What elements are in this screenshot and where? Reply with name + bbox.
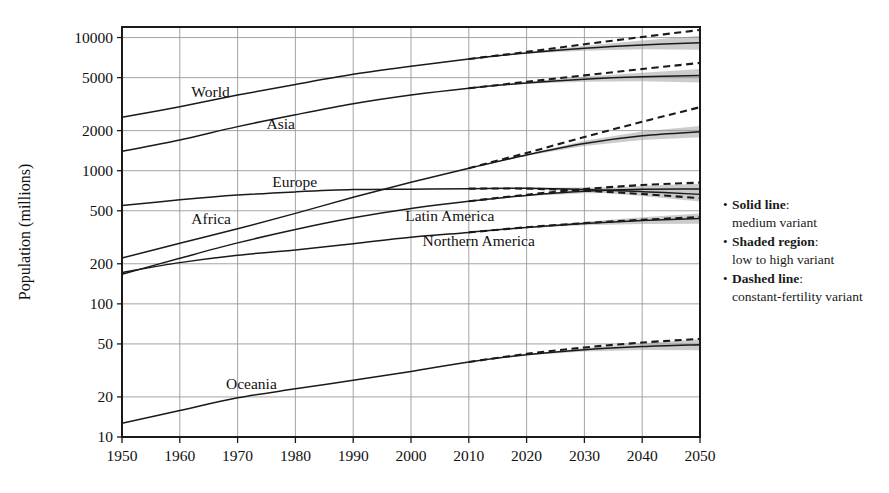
x-tick-label: 2000 [396,447,427,464]
y-axis-title: Population (millions) [16,164,34,300]
series-label-oceania: Oceania [226,375,277,392]
population-projection-figure: 10205010020050010002000500010000 1950196… [0,0,889,493]
series-label-asia: Asia [267,115,296,132]
legend-colon: : [815,234,819,249]
legend-colon: : [786,197,790,212]
x-tick-label: 1950 [107,447,138,464]
y-tick-label: 10000 [74,29,113,46]
bullet-icon: • [723,270,732,306]
legend-item-solid-line: • Solid line: medium variant [723,196,889,232]
y-tick-label: 5000 [82,69,113,86]
y-tick-label: 10 [98,428,114,445]
y-tick-label: 1000 [82,162,113,179]
y-tick-label: 50 [98,335,114,352]
series-label-africa: Africa [191,210,231,227]
y-tick-label: 500 [90,202,114,219]
x-tick-label: 2040 [627,447,658,464]
legend-term-dashed-line: Dashed line [732,271,799,286]
x-tick-label: 1970 [222,447,253,464]
x-tick-label: 2020 [511,447,542,464]
legend-panel: • Solid line: medium variant • Shaded re… [723,196,889,307]
y-tick-label: 2000 [82,122,113,139]
legend-desc-solid-line: medium variant [732,214,889,232]
y-tick-label: 200 [90,255,114,272]
legend-term-solid-line: Solid line [732,197,786,212]
series-label-world: World [191,83,230,100]
legend-item-dashed-line: • Dashed line: constant-fertility varian… [723,270,889,306]
y-tick-label: 100 [90,295,114,312]
bullet-icon: • [723,196,732,232]
x-tick-label: 2050 [685,447,716,464]
x-tick-label: 1960 [164,447,195,464]
legend-desc-dashed-line: constant-fertility variant [732,288,889,306]
series-label-northern-america: Northern America [423,232,535,249]
series-label-europe: Europe [272,173,317,190]
y-tick-label: 20 [98,388,114,405]
legend-term-shaded-region: Shaded region [732,234,815,249]
x-tick-label: 1980 [280,447,311,464]
legend-colon: : [799,271,803,286]
x-tick-label: 2010 [453,447,484,464]
bullet-icon: • [723,233,732,269]
legend-desc-shaded-region: low to high variant [732,251,889,269]
series-label-latin-america: Latin America [405,207,494,224]
x-tick-label: 2030 [569,447,600,464]
legend-item-shaded-region: • Shaded region: low to high variant [723,233,889,269]
x-tick-label: 1990 [338,447,369,464]
